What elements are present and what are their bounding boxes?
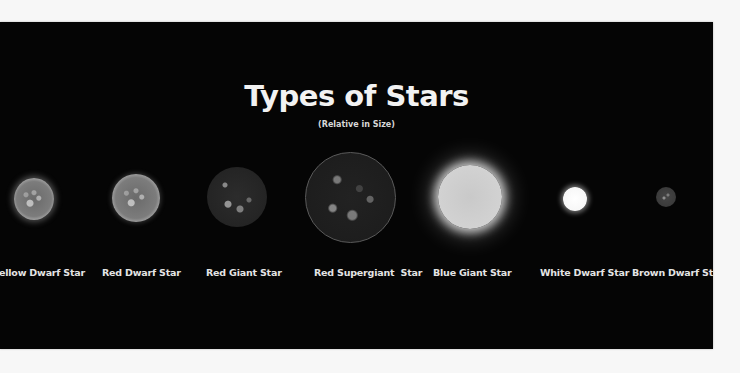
white-dwarf-star-image — [563, 187, 587, 211]
blue-giant-star-image — [438, 165, 502, 229]
red-supergiant-star-label: Red Supergiant Star — [314, 266, 422, 280]
star-types-panel: Types of Stars (Relative in Size) ellow … — [0, 22, 713, 349]
white-dwarf-star-label: White Dwarf Star — [540, 266, 629, 280]
infographic-subtitle: (Relative in Size) — [0, 119, 713, 131]
red-dwarf-star-image — [112, 174, 160, 222]
infographic-title: Types of Stars — [0, 78, 713, 114]
brown-dwarf-star-label: Brown Dwarf Star — [632, 266, 713, 280]
blue-giant-star-label: Blue Giant Star — [433, 266, 512, 280]
red-dwarf-star-label: Red Dwarf Star — [102, 266, 181, 280]
brown-dwarf-star-image — [656, 187, 676, 207]
red-giant-star-image — [207, 167, 267, 227]
red-giant-star-label: Red Giant Star — [206, 266, 282, 280]
yellow-dwarf-star-label: ellow Dwarf Star — [0, 266, 85, 280]
yellow-dwarf-star-image — [14, 178, 54, 220]
red-supergiant-star-image — [305, 152, 396, 243]
